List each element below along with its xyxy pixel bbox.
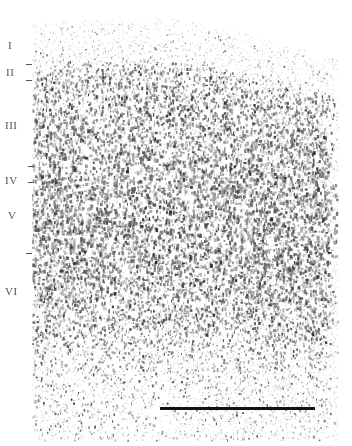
layer-boundary-tick [26,80,32,81]
layer-boundary-tick [26,64,32,65]
scale-bar [160,407,315,410]
layer-label: V [8,210,16,221]
layer-boundary-tick [26,253,32,254]
layer-label: IV [5,175,18,186]
layer-boundary-tick [28,166,34,167]
layer-label: III [5,120,18,131]
histology-figure: IIIIIIIVVVI [0,0,352,446]
layer-label: I [8,40,12,51]
layer-label: II [6,67,14,78]
layer-label: VI [5,286,18,297]
stained-cortex-section [0,0,352,446]
layer-boundary-tick [28,182,34,183]
